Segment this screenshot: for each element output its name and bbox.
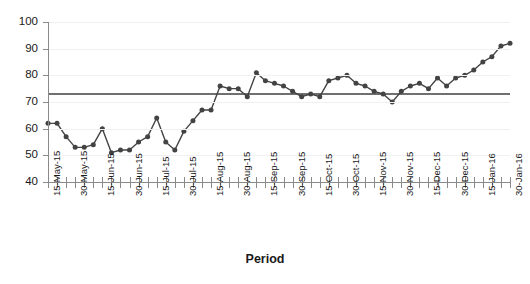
x-axis-tick	[483, 177, 484, 188]
data-point	[317, 94, 322, 99]
data-point	[299, 94, 304, 99]
y-axis-tick	[43, 155, 48, 156]
x-axis-tick-label: 15-Jun-15	[106, 153, 116, 196]
x-axis-tick	[447, 177, 448, 188]
data-point	[290, 89, 295, 94]
y-axis-tick-label: 90	[0, 43, 38, 55]
data-point	[354, 81, 359, 86]
x-axis-tick	[265, 177, 266, 188]
y-axis-tick	[43, 49, 48, 50]
x-axis-tick	[374, 177, 375, 188]
x-axis-tick-label: 15-Nov-15	[378, 152, 388, 196]
x-axis-tick	[66, 177, 67, 188]
x-axis-tick	[184, 177, 185, 188]
x-axis-tick	[284, 177, 285, 188]
data-point	[227, 86, 232, 91]
data-point	[218, 84, 223, 89]
x-axis-tick	[130, 177, 131, 188]
x-axis-tick	[102, 177, 103, 188]
data-point	[172, 148, 177, 153]
data-point	[326, 78, 331, 83]
x-axis-tick	[311, 177, 312, 188]
x-axis-tick	[428, 177, 429, 188]
data-point	[118, 148, 123, 153]
data-point	[381, 92, 386, 97]
data-point	[73, 145, 78, 150]
x-axis-tick	[510, 177, 511, 188]
gridline	[48, 22, 510, 23]
data-point	[236, 86, 241, 91]
y-axis-tick	[43, 102, 48, 103]
data-point	[272, 81, 277, 86]
data-point	[82, 145, 87, 150]
data-point	[245, 94, 250, 99]
series-line	[48, 43, 510, 152]
x-axis-tick	[157, 177, 158, 188]
data-point	[55, 121, 60, 126]
x-axis-tick	[365, 177, 366, 188]
data-point	[281, 84, 286, 89]
x-axis-tick-label: 15-Oct-15	[324, 154, 334, 196]
data-point	[127, 148, 132, 153]
gridline	[48, 49, 510, 50]
x-axis-tick-label: 15-Aug-15	[215, 152, 225, 196]
x-axis-tick	[293, 177, 294, 188]
x-axis-tick-label: 15-Jan-16	[487, 153, 497, 196]
data-point	[136, 140, 141, 145]
y-axis-tick-label: 70	[0, 96, 38, 108]
x-axis-tick-label: 30-Jan-16	[514, 153, 524, 196]
data-point	[417, 81, 422, 86]
y-axis-tick-label: 50	[0, 149, 38, 161]
x-axis-tick-label: 15-May-15	[52, 151, 62, 196]
x-axis-tick	[211, 177, 212, 188]
data-point	[508, 41, 513, 46]
x-axis-tick	[347, 177, 348, 188]
x-axis-tick-label: 30-Oct-15	[351, 154, 361, 196]
y-axis-tick	[43, 75, 48, 76]
x-axis-tick-label: 30-Nov-15	[405, 152, 415, 196]
data-point	[145, 134, 150, 139]
data-point	[91, 142, 96, 147]
data-point	[426, 86, 431, 91]
data-point	[190, 118, 195, 123]
data-point	[489, 54, 494, 59]
gridline	[48, 102, 510, 103]
x-axis-tick-label: 30-Dec-15	[460, 152, 470, 196]
y-axis-tick-label: 40	[0, 176, 38, 188]
data-point	[263, 78, 268, 83]
data-point	[308, 92, 313, 97]
y-axis-line	[48, 22, 49, 183]
x-axis-title: Period	[0, 252, 530, 266]
data-point	[363, 84, 368, 89]
y-axis-tick-label: 100	[0, 16, 38, 28]
data-point	[372, 89, 377, 94]
x-axis-tick	[48, 177, 49, 188]
x-axis-tick	[148, 177, 149, 188]
gridline	[48, 129, 510, 130]
y-axis-tick	[43, 22, 48, 23]
x-axis-tick	[474, 177, 475, 188]
x-axis-tick	[238, 177, 239, 188]
gridline	[48, 75, 510, 76]
y-axis-tick-label: 80	[0, 69, 38, 81]
x-axis-tick-label: 15-Jul-15	[161, 156, 171, 196]
x-axis-tick	[401, 177, 402, 188]
x-axis-tick-label: 30-Jul-15	[188, 156, 198, 196]
x-axis-tick	[419, 177, 420, 188]
x-axis-tick-label: 30-Sep-15	[297, 152, 307, 196]
x-axis-tick	[456, 177, 457, 188]
x-axis-tick	[501, 177, 502, 188]
data-point	[399, 89, 404, 94]
data-point	[480, 60, 485, 65]
data-point	[209, 108, 214, 113]
x-axis-tick	[93, 177, 94, 188]
x-axis-tick	[175, 177, 176, 188]
x-axis-tick-label: 30-May-15	[79, 151, 89, 196]
x-axis-tick	[256, 177, 257, 188]
x-axis-tick-label: 30-Aug-15	[242, 152, 252, 196]
data-point	[408, 84, 413, 89]
x-axis-tick	[229, 177, 230, 188]
x-axis-tick	[75, 177, 76, 188]
data-point	[200, 108, 205, 113]
x-axis-tick-label: 30-Jun-15	[134, 153, 144, 196]
